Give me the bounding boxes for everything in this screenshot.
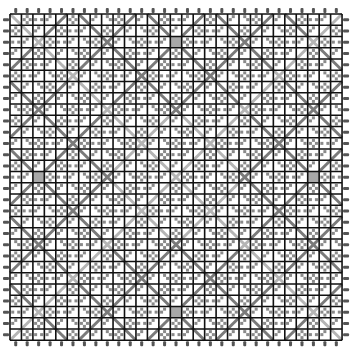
nub-mark xyxy=(281,232,284,235)
nub-mark xyxy=(223,187,226,190)
nub-mark xyxy=(37,83,40,86)
slash-diagonal xyxy=(90,115,101,126)
slash-diagonal xyxy=(147,127,158,138)
nub-mark xyxy=(80,108,83,111)
nub-mark xyxy=(212,18,215,21)
nub-mark xyxy=(83,206,86,209)
pin-right xyxy=(343,29,349,32)
nub-mark xyxy=(243,94,246,97)
nub-mark xyxy=(243,161,246,164)
nub-mark xyxy=(194,164,197,167)
pin-bottom xyxy=(266,341,269,346)
backslash-diagonal xyxy=(228,160,239,171)
nub-mark xyxy=(189,86,192,89)
nub-mark xyxy=(286,176,289,179)
nub-mark xyxy=(278,134,281,137)
nub-mark xyxy=(335,77,338,80)
nub-mark xyxy=(312,296,315,299)
nub-mark xyxy=(23,18,26,21)
nub-mark xyxy=(143,52,146,55)
nub-mark xyxy=(197,229,200,232)
slash-diagonal xyxy=(216,194,227,205)
nub-mark xyxy=(197,71,200,74)
nub-mark xyxy=(200,311,203,314)
nub-mark xyxy=(68,299,71,302)
nub-mark xyxy=(189,209,192,212)
nub-mark xyxy=(303,153,306,156)
nub-mark xyxy=(335,229,338,232)
pin-top xyxy=(278,8,281,13)
nub-mark xyxy=(109,209,112,212)
nub-mark xyxy=(126,119,129,122)
slash-diagonal xyxy=(21,183,32,194)
nub-mark xyxy=(83,55,86,58)
nub-mark xyxy=(17,29,20,32)
nub-mark xyxy=(132,97,135,100)
nub-mark xyxy=(60,240,63,243)
nub-mark xyxy=(97,131,100,134)
nub-mark xyxy=(52,142,55,145)
nub-mark xyxy=(300,150,303,153)
backslash-diagonal xyxy=(262,262,273,273)
nub-mark xyxy=(71,38,74,41)
nub-mark xyxy=(94,83,97,86)
nub-mark xyxy=(175,26,178,29)
nub-mark xyxy=(232,38,235,41)
nub-mark xyxy=(223,232,226,235)
nub-mark xyxy=(46,266,49,269)
nub-mark xyxy=(11,299,14,302)
nub-mark xyxy=(106,302,109,305)
nub-mark xyxy=(26,111,29,114)
nub-mark xyxy=(163,218,166,221)
nub-mark xyxy=(140,38,143,41)
nub-mark xyxy=(34,142,37,145)
nub-mark xyxy=(246,164,249,167)
nub-mark xyxy=(209,94,212,97)
nub-mark xyxy=(163,66,166,69)
nub-mark xyxy=(312,116,315,119)
nub-mark xyxy=(94,179,97,182)
nub-mark xyxy=(137,187,140,190)
nub-mark xyxy=(40,142,43,145)
nub-mark xyxy=(155,243,158,246)
nub-mark xyxy=(83,145,86,148)
nub-mark xyxy=(326,277,329,280)
backslash-diagonal xyxy=(10,284,21,295)
nub-mark xyxy=(315,52,318,55)
nub-mark xyxy=(183,108,186,111)
nub-mark xyxy=(323,83,326,86)
nub-mark xyxy=(206,176,209,179)
nub-mark xyxy=(114,311,117,314)
nub-mark xyxy=(60,274,63,277)
nub-mark xyxy=(275,221,278,224)
nub-mark xyxy=(178,86,181,89)
pin-right xyxy=(343,277,349,280)
nub-mark xyxy=(278,38,281,41)
nub-mark xyxy=(106,212,109,215)
nub-mark xyxy=(309,18,312,21)
nub-mark xyxy=(209,336,212,339)
nub-mark xyxy=(37,184,40,187)
nub-mark xyxy=(220,229,223,232)
pin-bottom xyxy=(186,341,189,346)
pin-top xyxy=(186,8,189,13)
nub-mark xyxy=(46,41,49,44)
nub-mark xyxy=(160,74,163,77)
nub-mark xyxy=(172,52,175,55)
nub-mark xyxy=(114,18,117,21)
pin-bottom xyxy=(94,341,97,346)
nub-mark xyxy=(137,243,140,246)
nub-mark xyxy=(212,187,215,190)
nub-mark xyxy=(292,29,295,32)
nub-mark xyxy=(137,63,140,66)
nub-mark xyxy=(275,266,278,269)
pin-top xyxy=(37,8,40,13)
nub-mark xyxy=(60,212,63,215)
nub-mark xyxy=(114,74,117,77)
nub-mark xyxy=(289,251,292,254)
nub-mark xyxy=(166,209,169,212)
nub-mark xyxy=(209,156,212,159)
nub-mark xyxy=(232,224,235,227)
backslash-diagonal xyxy=(147,217,158,228)
nub-mark xyxy=(217,97,220,100)
